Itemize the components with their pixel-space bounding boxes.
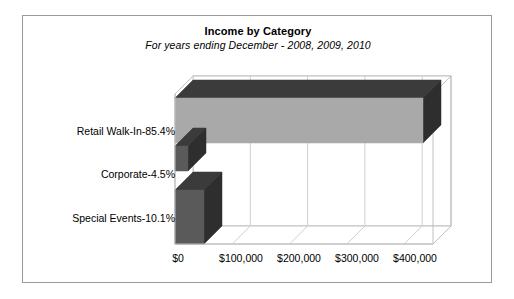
bar-front-face [175, 190, 204, 244]
x-tick-label-3: $300,000 [335, 252, 379, 265]
bar-retail-walk-in[interactable] [175, 80, 441, 143]
x-axis-tick-labels: $0 $100,000 $200,000 $300,000 $400,000 [23, 252, 493, 272]
bar-top-face [175, 80, 441, 98]
plot-svg [23, 16, 493, 284]
x-tick-label-0: $0 [172, 252, 184, 265]
bar-front-face [175, 98, 423, 143]
x-tick-label-2: $200,000 [277, 252, 321, 265]
x-tick-label-1: $100,000 [219, 252, 263, 265]
x-tick-label-4: $400,000 [393, 252, 437, 265]
bar-special-events[interactable] [175, 172, 222, 244]
chart-border: Income by Category For years ending Dece… [22, 15, 492, 283]
chart-screenshot: Income by Category For years ending Dece… [0, 0, 514, 299]
plot-area [23, 16, 493, 284]
bar-front-face [175, 146, 188, 171]
